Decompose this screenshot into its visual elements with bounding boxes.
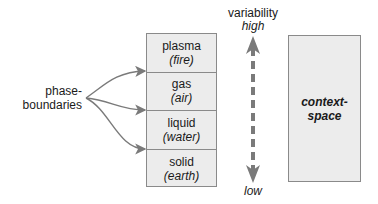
phase-element: (fire) — [169, 53, 194, 67]
phase-name: gas — [172, 77, 191, 91]
phase-name: solid — [169, 155, 194, 169]
phase-element: (air) — [171, 91, 192, 105]
boundary-arrows — [86, 71, 145, 149]
context-line-2: space — [301, 109, 348, 123]
context-line-1: context- — [301, 95, 348, 109]
phase-name: liquid — [167, 116, 195, 130]
variability-high-label: high — [222, 20, 284, 33]
arrow-to-liquid-solid — [86, 98, 145, 149]
phase-solid: solid (earth) — [147, 150, 216, 189]
variability-low-label: low — [222, 185, 284, 198]
phase-element: (earth) — [164, 169, 199, 183]
context-space-box: context- space — [288, 35, 361, 182]
phase-plasma: plasma (fire) — [147, 34, 216, 73]
phase-name: plasma — [162, 39, 201, 53]
phase-liquid: liquid (water) — [147, 111, 216, 150]
label-line-2: boundaries — [12, 98, 82, 112]
phase-stack: plasma (fire) gas (air) liquid (water) s… — [146, 33, 217, 187]
phase-element: (water) — [163, 130, 200, 144]
arrow-to-plasma-gas — [86, 71, 145, 98]
phase-gas: gas (air) — [147, 73, 216, 112]
variability-arrow — [246, 36, 260, 183]
label-line-1: phase- — [12, 84, 82, 98]
phase-boundaries-label: phase- boundaries — [12, 84, 82, 112]
